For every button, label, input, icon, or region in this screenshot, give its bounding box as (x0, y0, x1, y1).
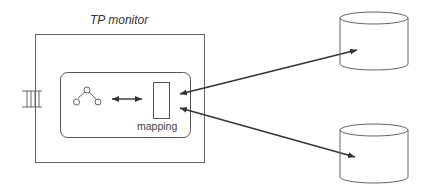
mapping-box (154, 83, 170, 119)
database-top-icon (340, 12, 408, 70)
mapping-db-top-arrow (180, 50, 357, 94)
diagram-canvas (0, 0, 430, 193)
tp-monitor-title: TP monitor (90, 13, 148, 27)
mapping-db-bottom-arrow (180, 108, 355, 157)
mapping-label: mapping (137, 120, 177, 132)
database-bottom-icon (340, 124, 408, 183)
queue-icon (22, 91, 42, 107)
tree-icon (74, 87, 102, 105)
